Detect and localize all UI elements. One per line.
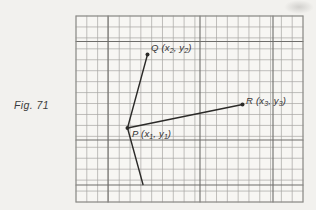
label-part: ) <box>283 95 286 106</box>
label-part: Q (x <box>151 42 170 53</box>
label-part: , y <box>174 42 185 53</box>
label-part: R (x <box>246 95 264 106</box>
figure-71: Fig. 71 Q (x2, y2) R (x3, y3) P (x1, y1) <box>0 0 316 210</box>
label-part: ) <box>188 42 191 53</box>
point-label-q: Q (x2, y2) <box>151 42 192 53</box>
label-part: , y <box>268 95 279 106</box>
label-part: , y <box>153 128 164 139</box>
figure-caption: Fig. 71 <box>14 99 49 111</box>
label-part: ) <box>168 128 171 139</box>
label-part: P (x <box>132 128 149 139</box>
point-label-r: R (x3, y3) <box>246 95 286 106</box>
point-label-p: P (x1, y1) <box>132 128 171 139</box>
